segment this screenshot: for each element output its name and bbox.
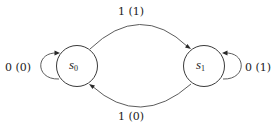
transition-label-s0-to-s1: 1 (1) (118, 6, 144, 17)
transition-label-s0-self: 0 (0) (5, 62, 31, 73)
self-loop-s1 (223, 53, 241, 79)
arrowhead-self-loop-s0 (55, 51, 61, 56)
state-s0-subscript: 0 (74, 64, 78, 73)
state-s1-subscript: 1 (201, 64, 205, 73)
edge-s0-to-s1 (90, 24, 188, 49)
edge-s1-to-s0 (92, 84, 191, 107)
transition-label-s1-to-s0: 1 (0) (118, 111, 144, 122)
state-s0-label: s0 (69, 58, 78, 73)
arrowhead-self-loop-s1 (222, 51, 228, 56)
state-s1-label: s1 (196, 58, 205, 73)
transition-label-s1-self: 0 (1) (245, 62, 271, 73)
